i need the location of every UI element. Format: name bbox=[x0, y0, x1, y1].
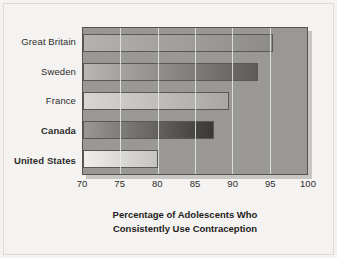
category-label-great-britain: Great Britain bbox=[6, 27, 80, 57]
chart-figure: Great Britain Sweden France Canada Unite… bbox=[0, 0, 337, 258]
x-axis: 707580859095100 bbox=[82, 178, 308, 194]
category-label-canada: Canada bbox=[6, 116, 80, 146]
bar-canada bbox=[83, 121, 214, 139]
plot-area bbox=[82, 27, 308, 175]
bar-sweden bbox=[83, 63, 258, 81]
bar-united-states bbox=[83, 150, 158, 168]
gridline-100 bbox=[307, 28, 308, 174]
bar-france bbox=[83, 92, 229, 110]
x-tick-label-80: 80 bbox=[152, 178, 163, 189]
bar-row bbox=[83, 145, 307, 174]
chart-title-line-1: Percentage of Adolescents Who bbox=[60, 208, 310, 222]
bar-row bbox=[83, 57, 307, 86]
category-label-sweden: Sweden bbox=[6, 57, 80, 87]
x-tick-label-70: 70 bbox=[77, 178, 88, 189]
bar-great-britain bbox=[83, 34, 273, 52]
x-tick-label-100: 100 bbox=[300, 178, 316, 189]
x-tick-label-85: 85 bbox=[190, 178, 201, 189]
category-label-france: France bbox=[6, 86, 80, 116]
chart-title-line-2: Consistently Use Contraception bbox=[60, 222, 310, 236]
category-axis: Great Britain Sweden France Canada Unite… bbox=[6, 27, 80, 175]
bar-series bbox=[83, 28, 307, 174]
category-label-united-states: United States bbox=[6, 145, 80, 175]
bar-row bbox=[83, 86, 307, 115]
bar-row bbox=[83, 116, 307, 145]
x-tick-label-90: 90 bbox=[227, 178, 238, 189]
x-tick-label-95: 95 bbox=[265, 178, 276, 189]
bar-row bbox=[83, 28, 307, 57]
x-tick-label-75: 75 bbox=[114, 178, 125, 189]
chart-title: Percentage of Adolescents Who Consistent… bbox=[60, 208, 310, 236]
